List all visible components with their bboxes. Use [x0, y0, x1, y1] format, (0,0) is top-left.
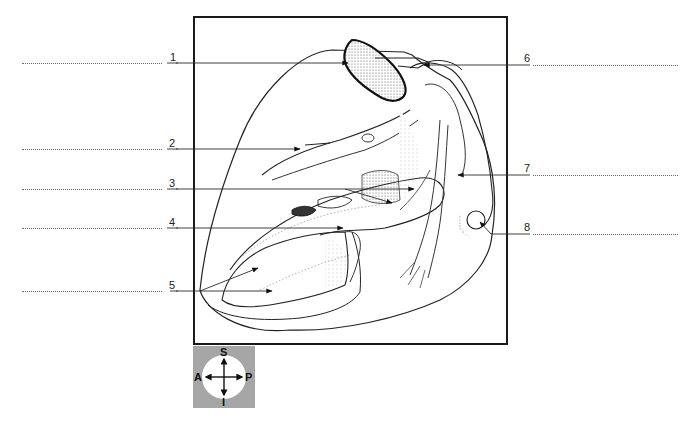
- leader-8: [480, 222, 530, 234]
- diagram-canvas: 1 2 3 4 5 6 7 8: [0, 0, 697, 430]
- compass-posterior-label: P: [245, 372, 252, 383]
- leader-5b: [200, 268, 258, 291]
- orientation-compass: S I A P: [193, 346, 255, 408]
- compass-superior-label: S: [220, 347, 227, 358]
- compass-inferior-label: I: [222, 397, 225, 408]
- heart-illustration: [0, 0, 697, 430]
- compass-anterior-label: A: [194, 372, 202, 383]
